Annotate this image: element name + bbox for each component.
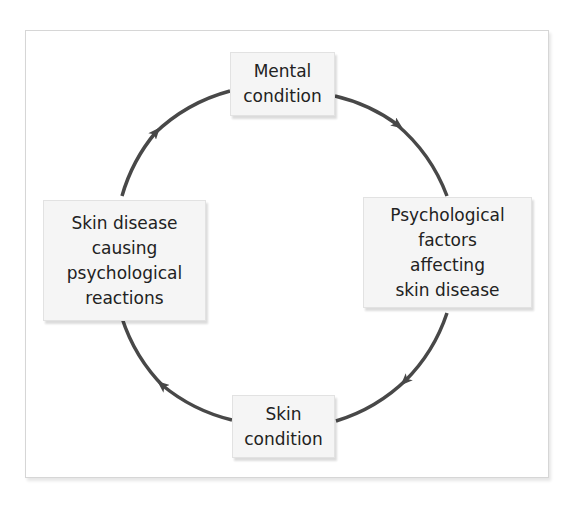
node-psychological-factors: Psychological factors affecting skin dis… <box>363 197 532 308</box>
arc-bottom-to-left <box>162 385 232 420</box>
node-mental-condition-label: Mental condition <box>243 59 322 109</box>
arc-bottom-to-left-tail <box>122 318 164 387</box>
arc-left-to-top <box>122 132 156 196</box>
arc-top-to-right-tail <box>396 124 447 196</box>
node-mental-condition: Mental condition <box>230 52 335 116</box>
arc-left-to-top-tail <box>154 91 230 134</box>
arc-right-to-bottom-tail <box>336 379 407 421</box>
node-skin-disease-reactions: Skin disease causing psychological react… <box>43 200 206 321</box>
arc-top-to-right <box>335 96 398 125</box>
node-psychological-factors-label: Psychological factors affecting skin dis… <box>390 203 505 303</box>
node-skin-condition: Skin condition <box>232 395 335 458</box>
node-skin-condition-label: Skin condition <box>244 402 323 452</box>
arc-right-to-bottom <box>405 313 447 381</box>
node-skin-disease-reactions-label: Skin disease causing psychological react… <box>67 211 182 311</box>
